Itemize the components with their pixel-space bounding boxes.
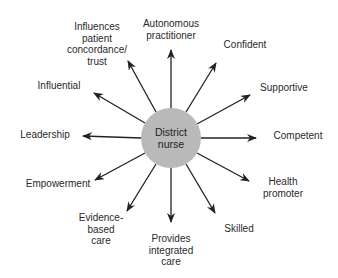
arrow-skilled [186, 164, 215, 213]
center-label: District nurse [155, 126, 187, 150]
node-autonomous-practitioner: Autonomous practitioner [143, 18, 199, 41]
node-competent: Competent [274, 130, 323, 142]
arrow-empowerment [95, 153, 145, 180]
node-supportive: Supportive [260, 82, 308, 94]
arrow-evidence-based-care [127, 164, 156, 211]
node-influences-patient-concordance-trust: Influences patient concordance/ trust [67, 21, 127, 67]
arrow-health-promoter [197, 153, 249, 181]
node-confident: Confident [224, 39, 267, 51]
arrow-leadership [83, 136, 141, 138]
node-health-promoter: Health promoter [263, 176, 303, 199]
arrow-influences-patient [128, 61, 156, 112]
node-evidence-based-care: Evidence- based care [79, 212, 123, 247]
node-leadership: Leadership [20, 129, 69, 141]
arrow-supportive [197, 95, 250, 124]
arrow-confident [186, 63, 216, 112]
arrow-influential [94, 93, 145, 123]
node-provides-integrated-care: Provides integrated care [149, 233, 193, 268]
node-skilled: Skilled [224, 223, 253, 235]
node-empowerment: Empowerment [26, 178, 90, 190]
node-influential: Influential [38, 80, 81, 92]
